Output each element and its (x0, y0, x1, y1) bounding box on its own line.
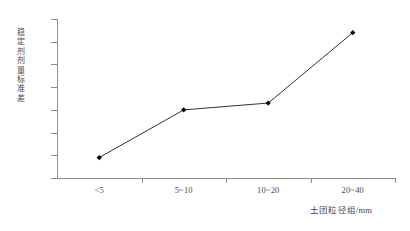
x-axis-title: 土团粒径组/mm (310, 203, 372, 215)
x-tick-mark (311, 178, 312, 183)
data-point (97, 155, 102, 160)
y-axis-title: 稳定剂剂量标准差 (14, 28, 28, 103)
series-markers (97, 30, 356, 160)
x-tick-label: 10~20 (228, 185, 308, 195)
data-point (266, 100, 271, 105)
x-tick-label: 5~10 (144, 185, 224, 195)
data-series (0, 0, 410, 231)
series-line (99, 33, 353, 158)
y-tick-mark (51, 64, 57, 65)
y-axis-line (57, 19, 58, 179)
chart-figure: 稳定剂剂量标准差 00.10.20.30.40.50.60.7 <55~1010… (0, 0, 410, 231)
y-tick-mark (51, 133, 57, 134)
y-tick-mark (51, 155, 57, 156)
y-tick-mark (51, 42, 57, 43)
x-tick-mark (395, 178, 396, 183)
x-tick-label: 20~40 (313, 185, 393, 195)
y-tick-mark (51, 178, 57, 179)
x-tick-label: <5 (59, 185, 139, 195)
x-tick-mark (226, 178, 227, 183)
y-tick-mark (51, 19, 57, 20)
y-tick-mark (51, 110, 57, 111)
y-tick-mark (51, 87, 57, 88)
data-point (350, 30, 355, 35)
x-tick-mark (142, 178, 143, 183)
data-point (181, 107, 186, 112)
